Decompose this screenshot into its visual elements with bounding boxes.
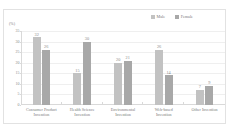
bar-value-label: 20 [116, 58, 120, 62]
bar-group: 1530 [62, 31, 103, 105]
x-axis-category-label: Health ScienceInvention [62, 107, 103, 117]
bar-rect [33, 37, 41, 105]
bar-female[interactable]: 9 [205, 31, 213, 105]
chart-legend: Male Female [122, 13, 222, 21]
bar-male[interactable]: 20 [114, 31, 122, 105]
bar-value-label: 26 [157, 45, 161, 49]
bar-rect [73, 73, 81, 105]
bar-rect [114, 63, 122, 105]
bar-value-label: 32 [34, 33, 38, 37]
bar-group: 2021 [103, 31, 144, 105]
plot-area: 05101520253035 322615302021261479 [21, 31, 225, 105]
bar-male[interactable]: 26 [155, 31, 163, 105]
legend-label-male: Male [157, 15, 166, 19]
bar-rect [42, 50, 50, 105]
bar-value-label: 9 [208, 81, 210, 85]
bar-rect [205, 86, 213, 105]
x-axis-category-label: Consumer ProductInvention [21, 107, 62, 117]
bar-female[interactable]: 14 [165, 31, 173, 105]
bar-female[interactable]: 30 [83, 31, 91, 105]
bar-value-label: 21 [126, 56, 130, 60]
x-axis-category-label: Web-basedInvention [143, 107, 184, 117]
x-axis-labels: Consumer ProductInventionHealth ScienceI… [21, 107, 225, 117]
x-axis-label-line: Invention [143, 112, 184, 117]
y-axis-tick-mark [20, 105, 22, 106]
bar-rect [83, 42, 91, 105]
bar-group: 3226 [21, 31, 62, 105]
bar-rect [124, 61, 132, 105]
bar-female[interactable]: 21 [124, 31, 132, 105]
x-axis-label-line: Invention [103, 112, 144, 117]
bar-value-label: 26 [44, 45, 48, 49]
bar-rect [155, 50, 163, 105]
x-axis-category-label: EnvironmentalInvention [103, 107, 144, 117]
x-axis-label-line: Invention [62, 112, 103, 117]
bar-female[interactable]: 26 [42, 31, 50, 105]
x-axis-category-label: Other Invention [184, 107, 225, 117]
bar-groups: 322615302021261479 [21, 31, 225, 105]
bar-group: 2614 [143, 31, 184, 105]
bar-rect [165, 75, 173, 105]
legend-swatch-female [175, 15, 179, 19]
bar-male[interactable]: 32 [33, 31, 41, 105]
chart-container: Male Female (%) 05101520253035 322615302… [3, 9, 226, 124]
x-axis-label-line: Invention [21, 112, 62, 117]
bar-value-label: 15 [75, 69, 79, 73]
bar-value-label: 7 [199, 85, 201, 89]
legend-item-male[interactable]: Male [151, 15, 165, 19]
bar-male[interactable]: 15 [73, 31, 81, 105]
bar-group: 79 [184, 31, 225, 105]
bar-value-label: 30 [85, 37, 89, 41]
legend-item-female[interactable]: Female [175, 15, 193, 19]
x-axis-label-line: Other Invention [184, 107, 225, 112]
legend-swatch-male [151, 15, 155, 19]
bar-rect [196, 90, 204, 105]
y-axis-unit-label: (%) [9, 22, 15, 26]
bar-value-label: 14 [166, 71, 170, 75]
bar-male[interactable]: 7 [196, 31, 204, 105]
legend-label-female: Female [181, 15, 193, 19]
